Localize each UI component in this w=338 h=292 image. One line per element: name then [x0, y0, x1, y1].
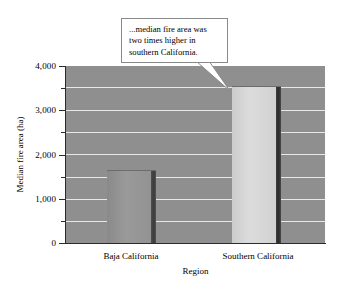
y-tick-500 [61, 221, 66, 222]
x-tick-label-baja-california: Baja California [66, 251, 196, 261]
callout-box: ...median fire area was two times higher… [121, 18, 228, 63]
y-tick-1000 [59, 199, 66, 200]
gridline-1000 [66, 199, 325, 200]
x-axis-line [65, 243, 326, 244]
bar-baja-california [107, 170, 156, 243]
y-tick-3000 [59, 110, 66, 111]
y-tick-3500 [61, 88, 66, 89]
bar-baja-california-top-edge [107, 170, 156, 171]
y-tick-4000 [59, 66, 66, 67]
bar-baja-california-shadow-edge [151, 170, 156, 243]
y-tick-label-4000: 4,000 [35, 62, 56, 71]
gridline-3000 [66, 110, 325, 111]
gridline-2000 [66, 154, 325, 155]
y-tick-label-1000: 1,000 [35, 195, 56, 204]
y-tick-2500 [61, 132, 66, 133]
x-axis-title: Region [66, 266, 325, 276]
callout-text-line-3: southern California. [129, 47, 198, 57]
y-tick-2000 [59, 155, 66, 156]
gridline-500 [66, 221, 325, 222]
y-tick-label-3000: 3,000 [35, 106, 56, 115]
callout-pointer-tail [196, 61, 236, 93]
bar-southern-california-shadow-edge [276, 86, 281, 243]
callout-text-line-2: two times higher in [129, 35, 196, 45]
bar-southern-california-top-edge [232, 86, 281, 87]
y-axis-title: Median fire area (ha) [16, 90, 25, 220]
figure-bar-chart-median-fire-area: 4,000 3,000 2,000 1,000 0 Median fire ar… [0, 0, 338, 292]
callout-text-line-1: ...median fire area was [129, 24, 207, 34]
y-tick-1500 [61, 177, 66, 178]
bar-baja-california-fill [107, 170, 151, 243]
y-tick-label-0: 0 [51, 239, 56, 248]
gridline-2500 [66, 132, 325, 133]
callout-text: ...median fire area was two times higher… [129, 24, 221, 58]
x-tick-label-southern-california: Southern California [190, 251, 326, 261]
y-tick-0 [59, 243, 66, 244]
y-tick-label-2000: 2,000 [35, 151, 56, 160]
bar-southern-california [232, 86, 281, 243]
gridline-1500 [66, 177, 325, 178]
bar-southern-california-fill [232, 86, 276, 243]
